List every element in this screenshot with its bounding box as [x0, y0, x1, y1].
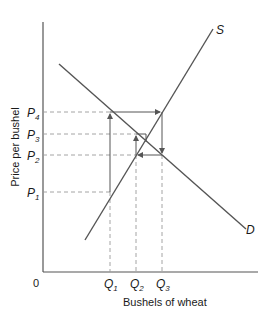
- cobweb-diagram: S D P4 P3 P2 P1 Q1 Q2 Q3 0 Bushels of wh…: [0, 0, 269, 317]
- quantity-guides: [110, 155, 162, 272]
- origin-label: 0: [33, 277, 39, 289]
- demand-curve: [59, 64, 246, 229]
- svg-text:Q1: Q1: [104, 277, 118, 293]
- supply-label: S: [216, 23, 224, 37]
- demand-label: D: [246, 223, 255, 237]
- svg-text:P3: P3: [27, 128, 40, 144]
- svg-text:P4: P4: [27, 106, 40, 122]
- svg-text:Q2: Q2: [130, 277, 144, 293]
- price-labels: P4 P3 P2 P1: [27, 106, 40, 202]
- supply-curve: [85, 29, 213, 240]
- x-axis-title: Bushels of wheat: [123, 296, 207, 308]
- y-axis-title: Price per bushel: [9, 107, 21, 187]
- svg-text:P2: P2: [27, 149, 40, 165]
- svg-text:Q3: Q3: [156, 277, 170, 293]
- svg-text:P1: P1: [27, 186, 39, 202]
- quantity-labels: Q1 Q2 Q3: [104, 277, 170, 293]
